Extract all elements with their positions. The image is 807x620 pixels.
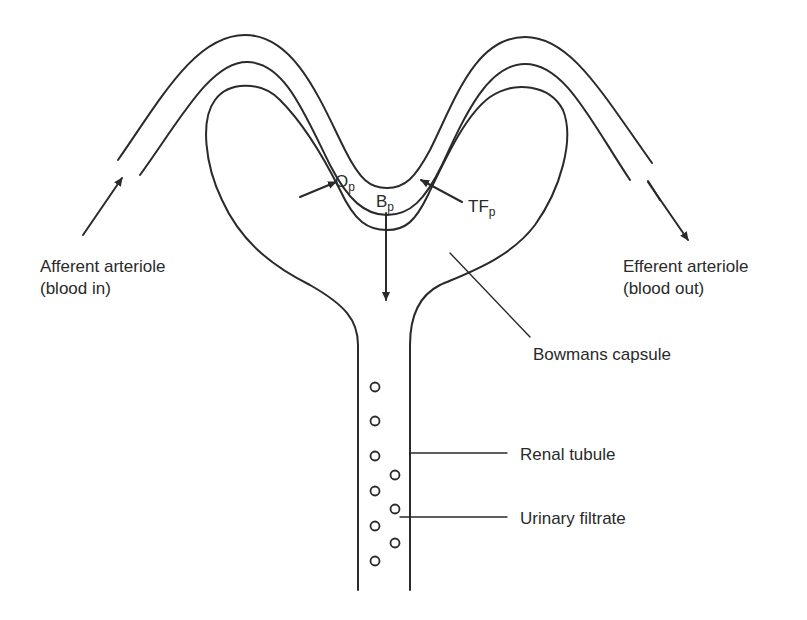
urinary-filtrate-label: Urinary filtrate	[520, 509, 626, 528]
nephron-diagram: Op Bp TFp Afferent arteriole (blood in) …	[0, 0, 807, 620]
efferent-sublabel: (blood out)	[623, 279, 704, 298]
renal-tubule-label: Renal tubule	[520, 445, 615, 464]
arteriole-outer-wall	[118, 35, 652, 188]
filtrate-particle	[371, 557, 380, 566]
filtrate-particle	[371, 383, 380, 392]
filtrate-particles	[371, 383, 400, 566]
bowmans-capsule-wall	[206, 86, 567, 590]
op-arrow	[300, 182, 336, 197]
afferent-arrow	[83, 178, 122, 235]
efferent-arrow	[648, 182, 688, 240]
filtrate-particle	[371, 487, 380, 496]
bp-label: Bp	[376, 192, 394, 214]
afferent-label: Afferent arteriole	[40, 257, 165, 276]
efferent-label: Efferent arteriole	[623, 257, 748, 276]
tfp-label: TFp	[468, 197, 496, 219]
filtrate-particle	[371, 522, 380, 531]
bowmans-leader	[450, 253, 530, 337]
filtrate-particle	[371, 452, 380, 461]
filtrate-particle	[391, 539, 400, 548]
filtrate-particle	[391, 505, 400, 514]
afferent-sublabel: (blood in)	[40, 279, 111, 298]
filtrate-particle	[391, 471, 400, 480]
op-label: Op	[335, 172, 355, 194]
filtrate-particle	[371, 417, 380, 426]
bowmans-capsule-label: Bowmans capsule	[533, 345, 671, 364]
